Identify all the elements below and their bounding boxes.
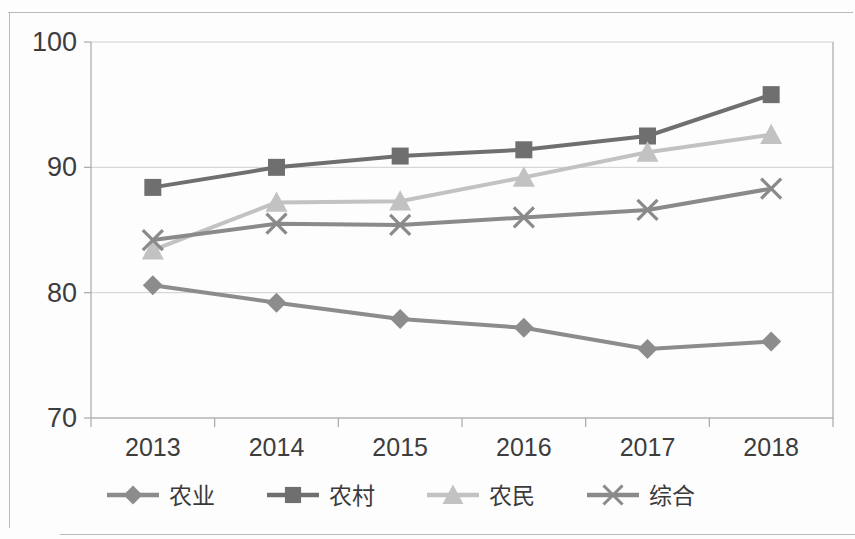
data-point-marker-square bbox=[515, 141, 532, 158]
data-point-marker-diamond bbox=[638, 339, 658, 359]
y-tick-label: 100 bbox=[32, 27, 77, 57]
legend-item-diamond[interactable]: 农业 bbox=[107, 483, 215, 509]
chart-figure: 708090100 201320142015201620172018 农业农村农… bbox=[0, 0, 855, 539]
legend-item-square[interactable]: 农村 bbox=[267, 483, 375, 509]
data-point-marker-diamond bbox=[124, 486, 143, 505]
data-point-marker-diamond bbox=[761, 332, 781, 352]
data-point-marker-diamond bbox=[390, 309, 410, 329]
series-square bbox=[144, 86, 779, 196]
x-tick-label: 2015 bbox=[372, 433, 428, 461]
series-line bbox=[153, 285, 771, 349]
y-axis-tick-labels: 708090100 bbox=[32, 27, 91, 433]
y-tick-label: 70 bbox=[47, 403, 77, 433]
legend-label: 综合 bbox=[649, 483, 695, 509]
data-point-marker-square bbox=[392, 148, 409, 165]
legend-item-triangle[interactable]: 农民 bbox=[427, 483, 535, 509]
x-tick-label: 2016 bbox=[496, 433, 552, 461]
data-point-marker-square bbox=[268, 159, 285, 176]
data-series-layer bbox=[142, 86, 782, 359]
chart-legend: 农业农村农民综合 bbox=[107, 483, 695, 509]
data-point-marker-square bbox=[285, 487, 301, 503]
series-triangle bbox=[142, 124, 782, 260]
x-tick-label: 2014 bbox=[249, 433, 305, 461]
legend-item-cross[interactable]: 综合 bbox=[587, 483, 695, 509]
data-point-marker-diamond bbox=[143, 275, 163, 295]
x-tick-label: 2017 bbox=[620, 433, 676, 461]
line-chart: 708090100 201320142015201620172018 农业农村农… bbox=[0, 0, 855, 539]
legend-label: 农民 bbox=[489, 483, 535, 509]
legend-label: 农业 bbox=[169, 483, 215, 509]
x-tick-label: 2018 bbox=[743, 433, 799, 461]
series-diamond bbox=[143, 275, 781, 359]
data-point-marker-square bbox=[763, 86, 780, 103]
data-point-marker-diamond bbox=[267, 293, 287, 313]
x-axis-tick-labels: 201320142015201620172018 bbox=[91, 418, 833, 461]
data-point-marker-diamond bbox=[514, 318, 534, 338]
series-line bbox=[153, 95, 771, 188]
x-tick-label: 2013 bbox=[125, 433, 181, 461]
data-point-marker-square bbox=[144, 179, 161, 196]
y-tick-label: 80 bbox=[47, 278, 77, 308]
y-tick-label: 90 bbox=[47, 152, 77, 182]
legend-label: 农村 bbox=[329, 483, 375, 509]
